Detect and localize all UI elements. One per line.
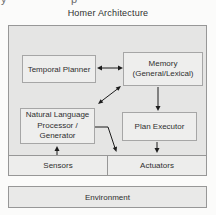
sensors-actuators-strip: Sensors Actuators: [8, 155, 207, 176]
node-nlp-label-line1: Natural Language: [26, 110, 90, 121]
node-nlp-label-line3: Generator: [39, 131, 75, 142]
node-actuators: Actuators: [108, 156, 206, 175]
node-natural-language-processor: Natural Language Processor / Generator: [20, 108, 95, 144]
node-temporal-planner: Temporal Planner: [22, 55, 96, 83]
node-sensors: Sensors: [9, 156, 108, 175]
node-nlp-label-line2: Processor /: [37, 121, 77, 132]
node-plan-executor: Plan Executor: [122, 112, 197, 141]
diagram-title: Homer Architecture: [0, 8, 216, 18]
agent-boundary-box: [8, 25, 207, 176]
node-memory-label-line1: Memory: [149, 59, 178, 69]
node-memory: Memory (General/Lexical): [123, 52, 203, 86]
node-environment-label: Environment: [85, 193, 130, 202]
node-memory-label-line2: (General/Lexical): [133, 69, 194, 79]
cropped-text-fragment-mid: p: [71, 0, 77, 5]
node-sensors-label: Sensors: [43, 161, 72, 170]
node-environment: Environment: [8, 186, 207, 208]
cropped-text-fragment-left: y: [1, 0, 7, 5]
node-actuators-label: Actuators: [140, 161, 174, 170]
node-plan-executor-label: Plan Executor: [135, 121, 185, 132]
node-temporal-planner-label: Temporal Planner: [28, 64, 91, 75]
